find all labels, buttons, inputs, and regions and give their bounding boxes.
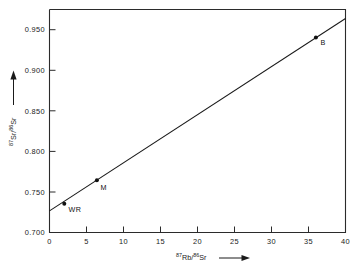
- x-tick-label-2: 10: [119, 237, 128, 246]
- data-point-labels: WR M B: [69, 38, 326, 214]
- y-tick-label-0: 0.700: [25, 228, 45, 237]
- data-point-b: [314, 36, 318, 40]
- isochron-figure: 0.700 0.750 0.800 0.850 0.900 0.950 0 5 …: [0, 0, 358, 271]
- x-axis-ticks: [50, 227, 346, 233]
- x-tick-label-0: 0: [47, 237, 51, 246]
- x-tick-label-7: 35: [304, 237, 313, 246]
- y-tick-label-3: 0.850: [25, 107, 45, 116]
- y-tick-label-4: 0.900: [25, 66, 45, 75]
- y-axis-title: 87Sr/86Sr: [8, 117, 18, 146]
- y-tick-label-2: 0.800: [25, 147, 45, 156]
- x-axis-tick-labels: 0 5 10 15 20 25 30 35 40: [47, 237, 350, 246]
- x-tick-label-6: 30: [267, 237, 276, 246]
- x-tick-label-3: 15: [156, 237, 165, 246]
- x-tick-label-4: 20: [193, 237, 202, 246]
- x-tick-label-1: 5: [84, 237, 88, 246]
- y-axis-ticks: [50, 30, 56, 233]
- plot-frame: [50, 10, 346, 233]
- isochron-line: [50, 19, 346, 211]
- chart-canvas: 0.700 0.750 0.800 0.850 0.900 0.950 0 5 …: [0, 0, 358, 271]
- x-tick-label-5: 25: [230, 237, 239, 246]
- y-axis-title-group: 87Sr/86Sr: [8, 71, 18, 147]
- y-tick-label-1: 0.750: [25, 188, 45, 197]
- x-axis-arrow-icon: [219, 255, 250, 261]
- y-axis-arrow-icon: [10, 71, 16, 106]
- y-axis-tick-labels: 0.700 0.750 0.800 0.850 0.900 0.950: [25, 25, 45, 237]
- data-point-label-b: B: [321, 38, 326, 47]
- data-point-label-wr: WR: [69, 205, 82, 214]
- data-point-wr: [62, 202, 66, 206]
- x-axis-title-group: 87Rb/86Sr: [176, 252, 250, 262]
- data-point-label-m: M: [101, 183, 108, 192]
- data-point-m: [95, 178, 99, 182]
- y-tick-label-5: 0.950: [25, 25, 45, 34]
- x-axis-title: 87Rb/86Sr: [176, 252, 207, 262]
- x-tick-label-8: 40: [341, 237, 350, 246]
